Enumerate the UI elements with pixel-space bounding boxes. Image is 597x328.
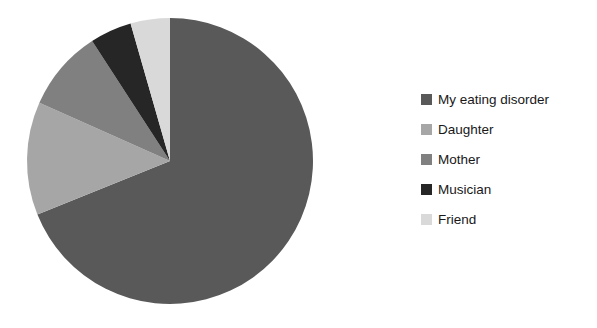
legend-item-label: Daughter (438, 122, 494, 137)
legend-item-friend[interactable]: Friend (421, 204, 597, 234)
legend-swatch-icon (421, 214, 432, 225)
legend-swatch-icon (421, 124, 432, 135)
chart-legend: My eating disorderDaughterMotherMusician… (421, 84, 597, 234)
legend-item-label: Musician (438, 182, 491, 197)
legend-swatch-icon (421, 184, 432, 195)
pie-chart-figure: My eating disorderDaughterMotherMusician… (0, 0, 597, 328)
pie-plot-area (0, 0, 340, 328)
legend-item-my-eating-disorder[interactable]: My eating disorder (421, 84, 597, 114)
legend-item-label: My eating disorder (438, 92, 549, 107)
legend-swatch-icon (421, 154, 432, 165)
legend-item-mother[interactable]: Mother (421, 144, 597, 174)
pie-svg (0, 0, 340, 328)
pie-slice-group (27, 18, 313, 304)
legend-item-label: Mother (438, 152, 480, 167)
legend-item-musician[interactable]: Musician (421, 174, 597, 204)
legend-swatch-icon (421, 94, 432, 105)
legend-item-daughter[interactable]: Daughter (421, 114, 597, 144)
legend-item-label: Friend (438, 212, 476, 227)
